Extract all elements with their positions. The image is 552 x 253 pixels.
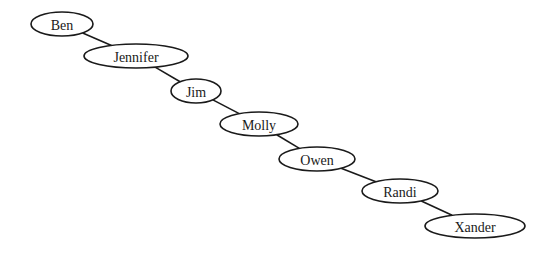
node-randi: Randi bbox=[362, 179, 438, 203]
node-molly: Molly bbox=[220, 112, 298, 136]
node-owen: Owen bbox=[279, 147, 355, 171]
edge-jim-molly bbox=[213, 100, 239, 114]
node-label: Randi bbox=[383, 185, 417, 200]
node-xander: Xander bbox=[425, 214, 525, 238]
node-label: Ben bbox=[51, 18, 74, 33]
edge-molly-owen bbox=[277, 135, 300, 149]
node-label: Xander bbox=[454, 220, 496, 235]
node-label: Owen bbox=[300, 153, 333, 168]
node-label: Jennifer bbox=[113, 50, 158, 65]
node-jennifer: Jennifer bbox=[84, 44, 188, 68]
node-label: Molly bbox=[242, 118, 276, 133]
node-jim: Jim bbox=[171, 79, 221, 103]
edge-jennifer-jim bbox=[155, 67, 180, 82]
node-ben: Ben bbox=[31, 12, 93, 36]
edge-ben-jennifer bbox=[83, 33, 112, 45]
tree-diagram: BenJenniferJimMollyOwenRandiXander bbox=[0, 0, 552, 253]
edge-owen-randi bbox=[341, 168, 376, 181]
nodes-group: BenJenniferJimMollyOwenRandiXander bbox=[31, 12, 525, 238]
node-label: Jim bbox=[186, 85, 206, 100]
edge-randi-xander bbox=[421, 201, 452, 215]
